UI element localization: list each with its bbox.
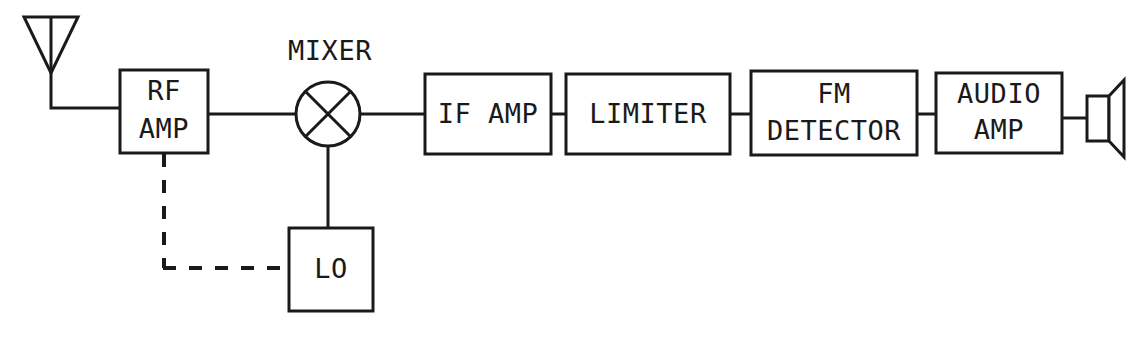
block-rf-amp-label-line2: AMP [139,113,189,144]
block-rf-amp-label-line1: RF [147,75,181,106]
block-rf-amp[interactable]: RF AMP [120,70,208,153]
mixer-circle-icon[interactable] [296,82,360,146]
mixer-label: MIXER [288,35,372,66]
speaker-icon [1087,80,1124,157]
block-fm-detector[interactable]: FM DETECTOR [751,71,917,155]
block-fm-detector-label-line1: FM [817,78,851,109]
block-lo[interactable]: LO [289,228,373,311]
block-lo-label-line1: LO [314,253,348,284]
block-if-amp[interactable]: IF AMP [425,74,551,154]
block-audio-amp[interactable]: AUDIO AMP [936,73,1062,153]
diagram-canvas: RF AMP MIXER LO IF AMP LIMITER FM [0,0,1148,338]
fm-receiver-block-diagram: RF AMP MIXER LO IF AMP LIMITER FM [0,0,1148,338]
block-fm-detector-label-line2: DETECTOR [767,115,901,146]
block-limiter-label-line1: LIMITER [589,98,707,129]
block-if-amp-label-line1: IF AMP [438,98,539,129]
block-audio-amp-label-line2: AMP [974,114,1024,145]
tuning-link-dashed [163,154,289,268]
block-limiter[interactable]: LIMITER [566,74,730,154]
antenna-icon [24,17,122,108]
block-audio-amp-label-line1: AUDIO [957,78,1041,109]
